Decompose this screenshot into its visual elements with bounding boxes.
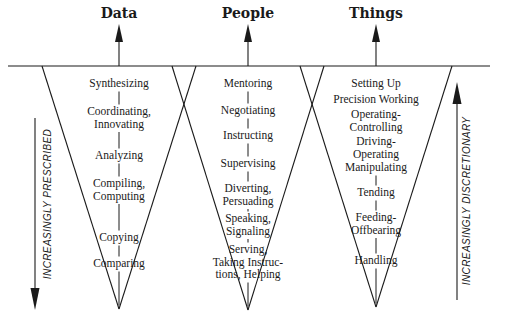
function-level-label: Instructing	[223, 129, 273, 142]
function-level-label: Operating	[353, 148, 399, 161]
arrow-up-icon	[372, 24, 380, 42]
cone-diagram: DataSynthesizingCoordinating,InnovatingA…	[0, 0, 517, 334]
function-level-label: Speaking,	[225, 212, 271, 225]
column-things: ThingsSetting UpPrecision WorkingOperati…	[300, 5, 452, 307]
function-level-label: Handling	[355, 254, 398, 267]
function-level-label: Persuading	[222, 195, 273, 208]
right-axis-label: INCREASINGLY DISCRETIONARY	[461, 116, 472, 285]
right-axis: INCREASINGLY DISCRETIONARY	[453, 82, 472, 300]
function-level-label: Signaling	[226, 225, 270, 238]
arrow-up-icon	[244, 24, 252, 42]
function-level-label: Mentoring	[224, 77, 273, 90]
arrow-up-icon	[453, 82, 462, 104]
function-level-label: Offbearing	[351, 224, 401, 237]
function-level-label: Compiling,	[93, 177, 145, 190]
worker-function-diagram: DataSynthesizingCoordinating,InnovatingA…	[0, 0, 517, 334]
arrow-up-icon	[115, 24, 123, 42]
function-level-label: Serving,	[229, 243, 268, 256]
function-level-label: Controlling	[349, 121, 402, 134]
function-level-label: Coordinating,	[87, 105, 151, 118]
function-level-label: Manipulating	[345, 161, 407, 174]
function-level-label: Diverting,	[225, 182, 272, 195]
function-level-label: Negotiating	[221, 104, 276, 117]
function-level-label: Operating-	[351, 108, 401, 121]
column-title: Things	[349, 5, 403, 21]
function-level-label: Computing	[93, 190, 145, 203]
column-title: Data	[101, 5, 138, 21]
function-level-label: Tending	[357, 186, 395, 199]
column-people: PeopleMentoringNegotiatingInstructingSup…	[172, 5, 324, 310]
function-level-label: Setting Up	[351, 77, 401, 90]
function-level-label: Driving-	[356, 135, 396, 148]
function-level-label: Synthesizing	[89, 77, 149, 90]
arrow-down-icon	[31, 288, 40, 310]
function-level-label: Feeding-	[356, 211, 397, 224]
function-level-label: Precision Working	[333, 93, 419, 106]
left-axis-label: INCREASINGLY PRESCRIBED	[42, 129, 53, 279]
function-level-label: Supervising	[221, 157, 276, 170]
function-level-label: Analyzing	[95, 149, 143, 162]
left-axis: INCREASINGLY PRESCRIBED	[31, 118, 53, 310]
column-title: People	[222, 5, 275, 21]
columns-group: DataSynthesizingCoordinating,InnovatingA…	[42, 5, 452, 310]
function-level-label: Taking Instruc-	[213, 256, 284, 269]
column-data: DataSynthesizingCoordinating,InnovatingA…	[42, 5, 196, 309]
function-level-label: Comparing	[93, 257, 145, 270]
function-level-label: tions, Helping	[215, 268, 280, 281]
function-level-label: Copying	[99, 231, 139, 244]
function-level-label: Innovating	[94, 118, 144, 131]
